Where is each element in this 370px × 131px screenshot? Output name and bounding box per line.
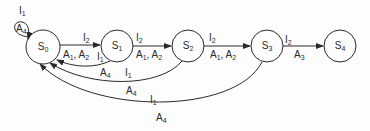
diagram-graphics (0, 0, 370, 131)
t01-action-label: A1, A2 (63, 50, 89, 61)
t34-input-label: I2 (285, 35, 292, 46)
b30-input-label: I1 (150, 95, 157, 106)
state-s4-label: S4 (325, 41, 355, 52)
state-s3-label: S3 (252, 41, 282, 52)
self-loop-action-label: A4 (16, 24, 27, 35)
state-s0-label: S0 (28, 42, 58, 53)
state-s1-label: S1 (102, 41, 132, 52)
b20-input-label: I1 (125, 68, 132, 79)
t01-input-label: I2 (83, 33, 90, 44)
t23-action-label: A1, A2 (210, 50, 236, 61)
state-diagram: S0 S1 S2 S3 S4 I1 A4 I2 A1, A2 I2 A1, A2… (0, 0, 370, 131)
b10-action-label: A4 (100, 68, 111, 79)
self-loop-input-label: I1 (19, 6, 26, 17)
b20-action-label: A4 (126, 86, 137, 97)
b30-action-label: A4 (156, 113, 167, 124)
t23-input-label: I2 (209, 33, 216, 44)
t34-action-label: A3 (294, 50, 305, 61)
b10-input-label: I1 (97, 52, 104, 63)
t12-input-label: I2 (136, 33, 143, 44)
t12-action-label: A1, A2 (136, 50, 162, 61)
state-s2-label: S2 (173, 41, 203, 52)
